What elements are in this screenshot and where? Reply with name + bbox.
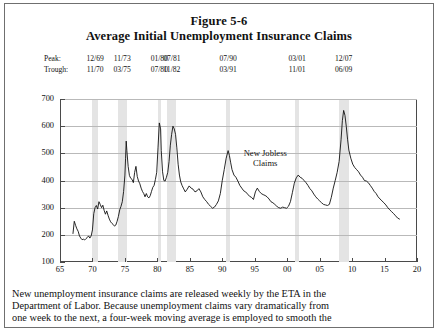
y-tick-label-400: 400 xyxy=(28,176,54,185)
trough-row-label: Trough: xyxy=(44,65,68,76)
y-tick-label-200: 200 xyxy=(28,230,54,239)
caption-line-1: New unemployment insurance claims are re… xyxy=(12,288,428,300)
recession-dates-table: Peak: 12/6911/7301/8007/8107/9003/0112/0… xyxy=(44,54,424,80)
x-tick-mark-05 xyxy=(320,258,321,262)
peak-date-6: 03/01 xyxy=(282,54,312,65)
series-annotation: New Jobless Claims xyxy=(235,148,295,168)
trough-date-1: 11/70 xyxy=(80,65,110,76)
x-tick-mark-20 xyxy=(417,258,418,262)
y-tick-mark-100 xyxy=(60,262,65,263)
x-tick-mark-95 xyxy=(255,258,256,262)
figure-number: Figure 5-6 xyxy=(0,14,438,29)
y-tick-mark-700 xyxy=(60,99,65,100)
y-tick-mark-500 xyxy=(60,153,65,154)
x-tick-mark-00 xyxy=(287,258,288,262)
y-tick-mark-600 xyxy=(60,126,65,127)
peak-row-label: Peak: xyxy=(44,54,61,65)
y-tick-label-600: 600 xyxy=(28,121,54,130)
x-tick-label-65: 65 xyxy=(48,265,72,274)
x-tick-label-70: 70 xyxy=(80,265,104,274)
y-tick-mark-200 xyxy=(60,235,65,236)
claims-line-series xyxy=(60,99,417,262)
peak-date-7: 12/07 xyxy=(329,54,359,65)
x-tick-label-10: 10 xyxy=(340,265,364,274)
peak-date-1: 12/69 xyxy=(80,54,110,65)
x-tick-label-05: 05 xyxy=(308,265,332,274)
x-tick-mark-10 xyxy=(352,258,353,262)
y-tick-label-500: 500 xyxy=(28,148,54,157)
x-tick-mark-65 xyxy=(60,258,61,262)
x-tick-mark-70 xyxy=(92,258,93,262)
figure-title: Average Initial Unemployment Insurance C… xyxy=(0,29,438,44)
y-tick-mark-300 xyxy=(60,208,65,209)
x-tick-label-85: 85 xyxy=(178,265,202,274)
caption-line-3: one week to the next, a four-week moving… xyxy=(12,312,428,324)
x-tick-mark-15 xyxy=(385,258,386,262)
x-tick-label-80: 80 xyxy=(145,265,169,274)
trough-row: Trough: 11/7003/7507/8011/8203/9111/0106… xyxy=(44,65,424,76)
x-tick-mark-80 xyxy=(157,258,158,262)
x-tick-mark-85 xyxy=(190,258,191,262)
annotation-line-1: New Jobless xyxy=(235,148,295,158)
x-tick-mark-75 xyxy=(125,258,126,262)
trough-date-7: 06/09 xyxy=(329,65,359,76)
x-tick-mark-90 xyxy=(222,258,223,262)
x-tick-label-75: 75 xyxy=(113,265,137,274)
y-tick-label-700: 700 xyxy=(28,94,54,103)
peak-date-4: 07/81 xyxy=(157,54,187,65)
chart-area: New Jobless Claims xyxy=(60,99,417,262)
x-tick-label-15: 15 xyxy=(373,265,397,274)
x-tick-label-90: 90 xyxy=(210,265,234,274)
caption-line-2: Department of Labor. Because unemploymen… xyxy=(12,300,428,312)
peak-row: Peak: 12/6911/7301/8007/8107/9003/0112/0… xyxy=(44,54,424,65)
y-tick-mark-400 xyxy=(60,181,65,182)
trough-date-4: 11/82 xyxy=(157,65,187,76)
x-tick-label-95: 95 xyxy=(243,265,267,274)
x-tick-label-20: 20 xyxy=(405,265,429,274)
trough-date-2: 03/75 xyxy=(107,65,137,76)
figure-caption: New unemployment insurance claims are re… xyxy=(12,288,428,323)
y-tick-label-300: 300 xyxy=(28,203,54,212)
figure-page: Figure 5-6 Average Initial Unemployment … xyxy=(0,0,438,331)
trough-date-5: 03/91 xyxy=(213,65,243,76)
peak-date-2: 11/73 xyxy=(107,54,137,65)
annotation-line-2: Claims xyxy=(235,158,295,168)
trough-date-6: 11/01 xyxy=(282,65,312,76)
peak-date-5: 07/90 xyxy=(213,54,243,65)
x-tick-label-00: 00 xyxy=(275,265,299,274)
